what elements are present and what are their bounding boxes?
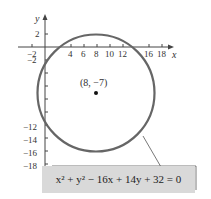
x-tick-label: 6 <box>81 49 86 59</box>
x-tick-label: 4 <box>68 49 73 59</box>
equation-text: x² + y² − 16x + 14y + 32 = 0 <box>42 166 195 193</box>
center-label: (8, −7) <box>80 77 107 89</box>
x-tick-label: 8 <box>94 49 99 59</box>
leader-line <box>143 136 161 167</box>
x-tick-label: 18 <box>157 49 167 59</box>
center-point <box>94 91 98 95</box>
y-tick-label: 2 <box>35 29 40 39</box>
equation-box: x² + y² − 16x + 14y + 32 = 0 <box>42 166 195 193</box>
y-tick-label: −18 <box>23 161 38 171</box>
x-axis-label: x <box>171 49 177 60</box>
y-tick-label: −12 <box>23 122 37 132</box>
x-tick-label: 10 <box>105 49 115 59</box>
y-axis-label: y <box>34 13 40 24</box>
y-tick-label: −2 <box>27 55 37 65</box>
y-axis-arrow-icon <box>43 14 48 20</box>
x-tick-label: 12 <box>118 49 127 59</box>
y-tick-label: −14 <box>23 135 38 145</box>
y-tick-label: −16 <box>23 148 38 158</box>
x-tick-label: 16 <box>144 49 154 59</box>
